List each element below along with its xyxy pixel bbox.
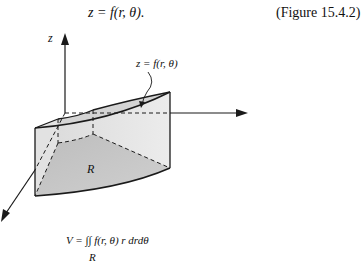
- region-label: R: [87, 162, 94, 177]
- y-axis: [4, 170, 35, 216]
- z-axis-label: z: [48, 31, 53, 46]
- y-axis-arrowhead: [1, 209, 10, 222]
- z-axis-arrowhead: [61, 33, 69, 45]
- surface-label: z = f(r, θ): [136, 57, 178, 69]
- volume-formula-region-subscript: R: [89, 251, 96, 263]
- volume-formula: V = ∫∫ f(r, θ) r drdθ: [66, 234, 149, 246]
- x-axis-arrowhead: [236, 109, 248, 117]
- polar-volume-figure: [0, 0, 362, 272]
